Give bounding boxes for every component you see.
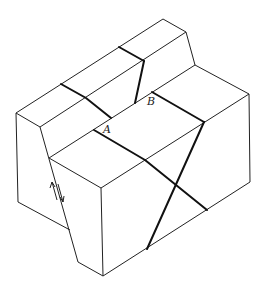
label-a: A	[102, 123, 111, 136]
marker-lines	[61, 47, 207, 249]
upper-block	[16, 19, 195, 262]
fault-slip-arrows-icon	[50, 182, 64, 202]
fault-block-diagram: A B	[0, 0, 264, 291]
label-b: B	[146, 95, 155, 108]
